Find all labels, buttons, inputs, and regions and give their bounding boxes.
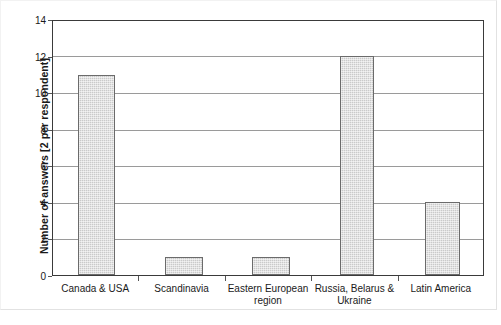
x-cat-tick-1 [138, 276, 139, 281]
bar-scandinavia [165, 257, 203, 275]
x-axis-label-scandinavia: Scandinavia [138, 283, 224, 295]
bar-russia-belarus-ukraine [340, 56, 374, 275]
bar-chart-figure: Number of answers [2 per respondent] 0 2… [0, 0, 501, 325]
y-axis-title: Number of answers [2 per respondent] [38, 26, 50, 286]
y-tick-label-14: 14 [6, 15, 46, 26]
gridline-10 [53, 93, 483, 94]
y-tick-label-2: 2 [6, 234, 46, 245]
gridline-4 [53, 203, 483, 204]
y-tick-label-6: 6 [6, 161, 46, 172]
x-cat-tick-2 [225, 276, 226, 281]
y-tick-label-8: 8 [6, 124, 46, 135]
y-tick-label-10: 10 [6, 88, 46, 99]
y-tick-mark-0 [48, 276, 52, 277]
gridline-8 [53, 130, 483, 131]
bar-canada-usa [78, 75, 115, 275]
x-cat-tick-3 [311, 276, 312, 281]
bar-eastern-european-region [252, 257, 290, 275]
y-tick-label-0: 0 [6, 271, 46, 282]
y-tick-label-12: 12 [6, 51, 46, 62]
gridline-6 [53, 166, 483, 167]
gridline-2 [53, 239, 483, 240]
gridline-12 [53, 56, 483, 57]
bar-latin-america [425, 202, 460, 275]
plot-area [52, 20, 484, 276]
x-cat-tick-4 [398, 276, 399, 281]
x-axis-label-eastern-european-region: Eastern European region [225, 283, 311, 307]
y-tick-label-4: 4 [6, 197, 46, 208]
x-axis-label-canada-usa: Canada & USA [52, 283, 138, 295]
x-axis-label-russia-belarus-ukraine: Russia, Belarus & Ukraine [311, 283, 397, 307]
x-axis-label-latin-america: Latin America [398, 283, 484, 295]
